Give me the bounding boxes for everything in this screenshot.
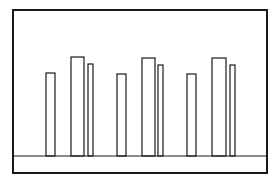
bar-2-c	[158, 65, 163, 156]
bar-3-c	[230, 65, 235, 156]
bar-diagram	[0, 0, 280, 182]
bar-3-a	[187, 74, 196, 156]
bar-2-b	[142, 58, 155, 156]
bar-1-c	[88, 64, 93, 156]
bar-3-b	[212, 58, 226, 156]
bar-1-a	[46, 73, 55, 156]
bar-1-b	[71, 57, 84, 156]
bars-group	[46, 57, 235, 156]
bar-2-a	[117, 74, 126, 156]
